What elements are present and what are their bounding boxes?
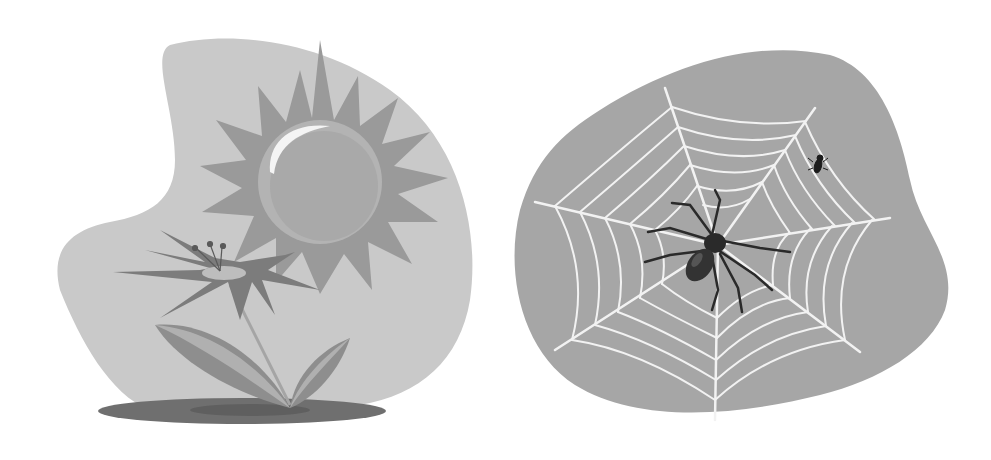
right-blob-background <box>515 50 949 412</box>
spider-web-illustration <box>495 0 991 460</box>
spider-web-svg <box>495 0 991 460</box>
flower-center <box>202 266 246 280</box>
flower-sun-illustration <box>0 0 495 460</box>
flower-sun-svg <box>0 0 495 460</box>
